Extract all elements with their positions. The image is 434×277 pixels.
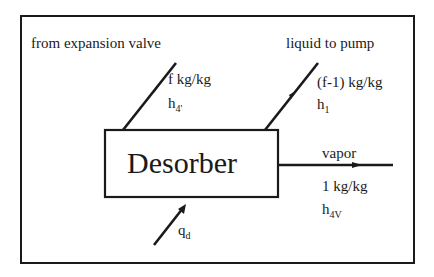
vapor-outlet-flow-rate: 1 kg/kg (322, 178, 367, 194)
liquid-outlet-enthalpy: h1 (317, 96, 330, 112)
vapor-outlet-arrow (278, 162, 393, 168)
enthalpy-subscript: 1 (325, 104, 330, 115)
enthalpy-symbol: h (168, 95, 176, 111)
arrowhead-icon (352, 162, 362, 168)
enthalpy-symbol: h (322, 201, 330, 217)
vapor-outlet-heading: vapor (322, 145, 356, 161)
inlet-enthalpy: h4' (168, 95, 182, 111)
enthalpy-subscript: 4' (176, 103, 183, 114)
vapor-outlet-enthalpy: h4V (322, 201, 342, 217)
outer-frame (21, 16, 414, 263)
desorber-label: Desorber (127, 147, 237, 179)
enthalpy-symbol: h (317, 96, 325, 112)
inlet-heading: from expansion valve (31, 35, 161, 51)
liquid-outlet-flow-rate: (f-1) kg/kg (317, 74, 382, 90)
heat-symbol: q (178, 222, 186, 238)
inlet-flow-rate: f kg/kg (168, 71, 211, 87)
liquid-outlet-arrow (265, 63, 318, 130)
enthalpy-subscript: 4V (330, 209, 342, 220)
heat-subscript: d (186, 230, 191, 241)
heat-input-label: qd (178, 222, 191, 238)
liquid-outlet-heading: liquid to pump (286, 35, 374, 51)
